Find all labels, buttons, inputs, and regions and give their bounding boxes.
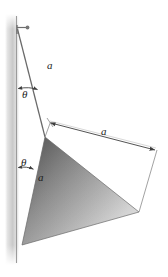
shaded-cone [22,137,139,245]
dimension-tick-left [47,118,53,127]
figure-canvas [0,0,168,277]
dimension-extension-right [139,150,157,212]
label-upper-angle: θ [22,89,27,100]
vertical-wall [5,14,19,265]
suspension-cord [18,29,46,137]
label-cord-length: a [47,60,53,71]
label-base-dimension: a [101,126,107,137]
mechanics-figure: a θ a θ a [0,0,168,277]
dimension-extension-left [45,122,51,137]
label-cone-side: a [38,172,44,183]
label-lower-angle: θ [21,157,26,168]
